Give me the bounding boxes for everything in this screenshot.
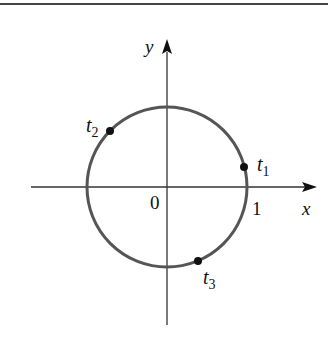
label-t1: t1 [257, 153, 270, 179]
y-axis-arrow-icon [162, 39, 172, 54]
x-axis [31, 182, 317, 192]
label-t2: t2 [86, 114, 99, 140]
y-axis-label: y [143, 36, 154, 57]
x-tick-label-1: 1 [252, 198, 262, 219]
y-axis [162, 39, 172, 325]
point-t3 [194, 257, 202, 265]
point-t2 [106, 127, 114, 135]
point-t1 [240, 163, 248, 171]
top-rule [0, 3, 328, 5]
unit-circle-figure: y x 0 1 t1 t2 t3 [0, 0, 328, 348]
label-t3: t3 [203, 266, 216, 292]
origin-label: 0 [150, 192, 160, 213]
x-axis-label: x [301, 198, 311, 219]
